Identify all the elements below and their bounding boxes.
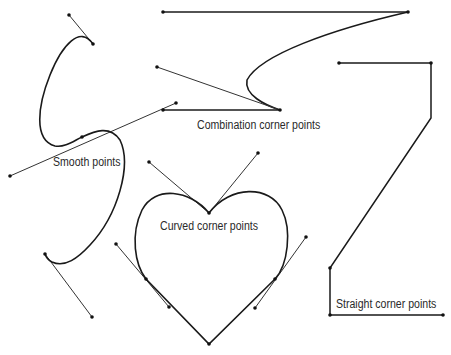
anchor-point xyxy=(273,277,277,281)
anchor-point xyxy=(429,61,433,65)
anchor-point xyxy=(161,108,165,112)
anchor-point xyxy=(43,252,47,256)
handle-point xyxy=(167,305,171,309)
straight-corner-points-label: Straight corner points xyxy=(336,297,436,311)
heart-path xyxy=(135,192,288,344)
handle-point xyxy=(253,306,257,310)
handle-point xyxy=(114,242,118,246)
combination-corner-points-group xyxy=(155,10,410,112)
anchor-point xyxy=(161,10,165,14)
anchor-point xyxy=(328,313,332,317)
heart-left-side-handle xyxy=(116,244,169,307)
curved-corner-points-label: Curved corner points xyxy=(160,219,258,233)
handle-point xyxy=(67,13,71,17)
anchor-point xyxy=(406,10,410,14)
handle-point xyxy=(155,65,159,69)
straight-path xyxy=(330,63,443,315)
smooth-bottom-handle xyxy=(45,254,92,317)
anchor-point xyxy=(207,211,211,215)
handle-point xyxy=(8,174,12,178)
anchor-point xyxy=(328,266,332,270)
anchor-point xyxy=(207,342,211,346)
anchor-point xyxy=(278,108,282,112)
anchor-point xyxy=(337,61,341,65)
anchor-point xyxy=(441,313,445,317)
anchor-point xyxy=(80,135,84,139)
handle-point xyxy=(90,315,94,319)
combination-curve-path xyxy=(247,12,408,110)
anchor-point xyxy=(91,42,95,46)
combination-corner-points-label: Combination corner points xyxy=(197,118,320,132)
smooth-curve-path xyxy=(40,37,125,264)
straight-corner-points-group xyxy=(328,61,445,317)
smooth-points-label: Smooth points xyxy=(53,155,121,169)
handle-point xyxy=(256,151,260,155)
anchor-point xyxy=(144,277,148,281)
handle-point xyxy=(147,160,151,164)
heart-left-top-handle xyxy=(149,162,209,213)
curved-corner-points-group xyxy=(114,151,308,346)
handle-point xyxy=(174,101,178,105)
handle-point xyxy=(304,235,308,239)
